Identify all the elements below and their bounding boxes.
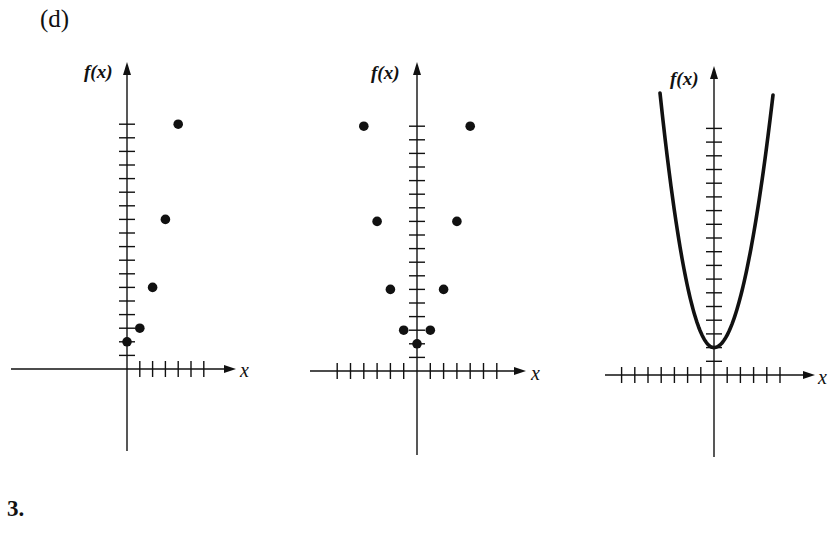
parabola-curve xyxy=(660,93,773,348)
x-axis-arrow-icon xyxy=(803,371,815,379)
y-axis-label: f(x) xyxy=(84,61,112,83)
data-point xyxy=(359,121,369,131)
x-axis-label: x xyxy=(239,359,249,381)
plot-parabola-curve: f(x)x xyxy=(605,66,827,457)
data-point xyxy=(399,325,409,335)
x-axis-label: x xyxy=(817,366,827,388)
data-point xyxy=(135,323,145,333)
data-point xyxy=(161,215,171,225)
y-axis-arrow-icon xyxy=(413,62,421,75)
data-point xyxy=(465,121,475,131)
function-plots: f(x)x f(x)x f(x)x xyxy=(0,0,831,553)
data-point xyxy=(412,339,422,349)
data-point xyxy=(372,217,382,227)
data-point xyxy=(173,119,183,129)
data-point xyxy=(439,285,449,295)
y-axis-arrow-icon xyxy=(710,66,718,79)
data-point xyxy=(452,217,462,227)
y-axis-label: f(x) xyxy=(670,68,698,90)
data-point xyxy=(122,337,132,347)
y-axis-label: f(x) xyxy=(371,62,399,84)
x-axis-arrow-icon xyxy=(224,365,236,373)
y-axis-arrow-icon xyxy=(123,62,131,75)
data-point xyxy=(386,285,396,295)
plot-points-symmetric: f(x)x xyxy=(310,62,540,455)
plot-points-nonnegative: f(x)x xyxy=(11,61,249,451)
x-axis-label: x xyxy=(530,362,540,384)
x-axis-arrow-icon xyxy=(514,367,526,375)
data-point xyxy=(148,283,158,293)
data-point xyxy=(426,325,436,335)
